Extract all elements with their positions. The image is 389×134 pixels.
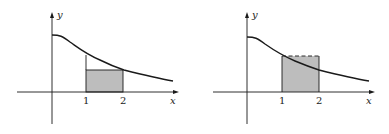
tick-1: 1 [279, 95, 285, 106]
left-graph: y x 1 2 [17, 9, 179, 124]
x-axis-arrow-icon [369, 90, 375, 94]
tick-2: 2 [120, 95, 126, 106]
right-graph: y x 1 2 [213, 9, 375, 124]
y-axis-arrow-icon [50, 12, 54, 18]
x-axis-arrow-icon [173, 90, 179, 94]
shaded-rectangle [282, 56, 319, 92]
tick-2: 2 [316, 95, 322, 106]
x-axis-label: x [366, 95, 372, 106]
y-axis-label: y [56, 9, 63, 20]
figure-canvas: y x 1 2 y x 1 2 [0, 0, 389, 134]
x-axis-label: x [170, 95, 176, 106]
y-axis-label: y [251, 9, 258, 20]
shaded-rectangle [86, 70, 123, 92]
y-axis-arrow-icon [245, 12, 249, 18]
tick-1: 1 [83, 95, 89, 106]
